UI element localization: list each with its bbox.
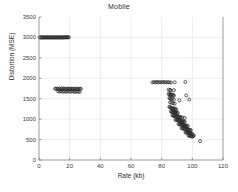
chart-figure: Mobile 0500100015002000250030003500 0204… (0, 0, 238, 192)
x-tick-label: 120 (218, 163, 228, 169)
data-point (184, 80, 187, 83)
y-tick-label: 0 (2, 157, 36, 163)
data-point (199, 140, 202, 143)
chart-title: Mobile (0, 3, 238, 10)
y-axis-tick-labels: 0500100015002000250030003500 (0, 17, 36, 160)
data-point (185, 94, 188, 97)
x-tick-label: 20 (66, 163, 73, 169)
x-tick-label: 40 (97, 163, 104, 169)
scatter-plot-svg (39, 17, 223, 160)
data-point (173, 81, 176, 84)
x-tick-label: 0 (37, 163, 40, 169)
data-point (172, 89, 175, 92)
data-points-layer (38, 36, 201, 143)
x-tick-label: 80 (158, 163, 165, 169)
x-axis-label: Rate (kb) (39, 172, 223, 179)
y-tick-label: 1500 (2, 96, 36, 102)
y-axis-label: Distortion (MSE) (8, 17, 15, 97)
data-point (178, 99, 181, 102)
y-tick-label: 500 (2, 137, 36, 143)
x-tick-label: 60 (128, 163, 135, 169)
plot-area (39, 17, 223, 160)
x-tick-label: 100 (187, 163, 197, 169)
y-tick-label: 1000 (2, 116, 36, 122)
